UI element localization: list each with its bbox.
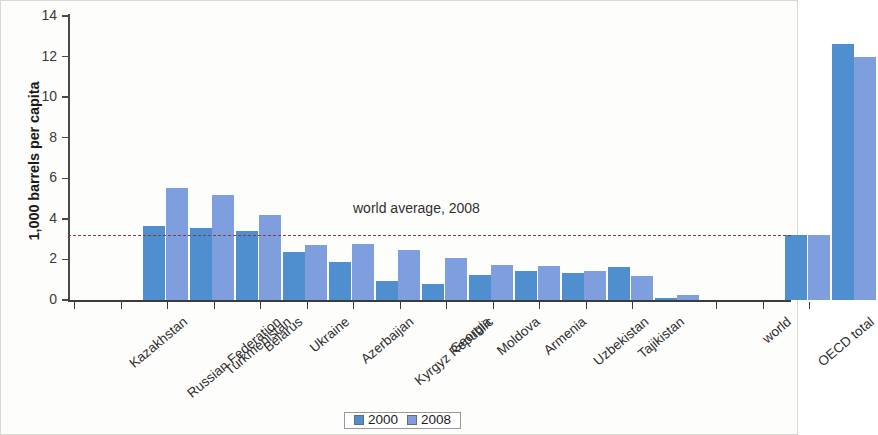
- x-axis-label-moldova: Moldova: [494, 314, 543, 358]
- x-axis-tick: [74, 302, 75, 309]
- x-axis-label-azerbaijan: Azerbaijan: [358, 314, 417, 366]
- x-axis-tick: [632, 302, 633, 309]
- x-axis-label-ukraine: Ukraine: [307, 314, 352, 355]
- y-axis-tick: [62, 137, 68, 138]
- x-axis-tick: [763, 302, 764, 309]
- x-axis-tick: [586, 302, 587, 309]
- legend-swatch-2008: [407, 415, 417, 425]
- x-axis-tick: [167, 302, 168, 309]
- x-axis-label-kazakhstan: Kazakhstan: [127, 314, 191, 371]
- bar-2000: [832, 44, 854, 300]
- x-axis-tick: [400, 302, 401, 309]
- legend-item-2008[interactable]: 2008: [407, 413, 451, 427]
- x-axis-tick: [716, 302, 717, 309]
- x-axis-label-uzbekistan: Uzbekistan: [591, 314, 652, 368]
- y-axis-tick: [62, 96, 68, 97]
- legend-label-2000: 2000: [368, 413, 398, 427]
- x-axis-tick: [446, 302, 447, 309]
- legend-swatch-2000: [354, 415, 364, 425]
- x-axis-label-georgia: Georgia: [447, 314, 493, 356]
- x-axis-tick: [307, 302, 308, 309]
- y-axis-tick: [62, 178, 68, 179]
- chart-legend: 2000 2008: [344, 412, 461, 429]
- x-axis-label-armenia: Armenia: [541, 314, 589, 358]
- legend-item-2000[interactable]: 2000: [354, 413, 398, 427]
- bar-2008: [854, 57, 876, 300]
- x-axis-tick: [353, 302, 354, 309]
- x-axis-tick: [214, 302, 215, 309]
- legend-label-2008: 2008: [421, 413, 451, 427]
- bar-2008: [808, 235, 830, 300]
- x-axis-tick: [493, 302, 494, 309]
- x-axis-tick: [539, 302, 540, 309]
- x-axis-label-world: world: [760, 314, 794, 346]
- y-axis-tick: [62, 218, 68, 219]
- x-axis-tick: [809, 302, 810, 309]
- x-axis-tick: [260, 302, 261, 309]
- x-axis-category-labels: KazakhstanRussian FederationTurkmenistan…: [1, 1, 799, 435]
- x-axis-label-oecd-total: OECD total: [815, 314, 877, 369]
- y-axis-tick: [62, 299, 68, 300]
- y-axis-tick: [62, 56, 68, 57]
- bar-group: [832, 16, 878, 300]
- y-axis-tick: [62, 15, 68, 16]
- y-axis-tick: [62, 259, 68, 260]
- x-axis-tick: [121, 302, 122, 309]
